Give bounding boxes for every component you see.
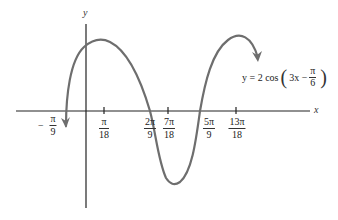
- neg-sign: −: [38, 120, 44, 131]
- cosine-curve: [66, 36, 258, 184]
- plot-area: [0, 0, 338, 220]
- equation-inner: 3x −: [289, 72, 307, 83]
- right-paren: ): [320, 67, 327, 87]
- x-axis-label: x: [314, 104, 318, 115]
- equation-fraction: π6: [309, 66, 316, 88]
- tick-label-13pi-18: 13π18: [228, 117, 245, 140]
- y-axis-label: y: [83, 7, 87, 18]
- equation-label: y = 2 cos ( 3x − π6 ): [242, 66, 329, 88]
- tick-label-neg-pi-9: π9: [49, 114, 56, 137]
- tick-label-5pi-9: 5π9: [203, 117, 215, 140]
- tick-label-2pi-9: 2π9: [144, 117, 156, 140]
- tick-label-7pi-18: 7π18: [163, 117, 175, 140]
- left-paren: (: [280, 67, 287, 87]
- tick-label-pi-18: π18: [99, 117, 109, 140]
- equation-lhs: y = 2 cos: [242, 72, 278, 83]
